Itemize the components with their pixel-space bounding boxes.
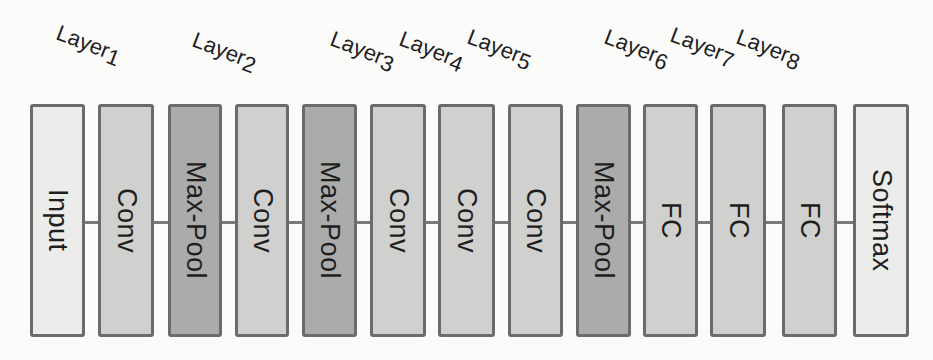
block-maxpool-3: Max-Pool: [576, 104, 631, 337]
block-label: FC: [723, 202, 754, 239]
block-fc-2: FC: [710, 104, 766, 337]
layer-tag-text: Layer: [464, 24, 524, 67]
layer-tag-5: Layer5: [464, 24, 536, 72]
layer-tag-text: Layer: [667, 22, 727, 65]
block-label: FC: [794, 202, 825, 239]
connector-line: [84, 221, 98, 224]
layer-tag-8: Layer8: [733, 24, 805, 72]
block-label: Conv: [111, 188, 142, 253]
cnn-architecture-diagram: Layer1 Layer2 Layer3 Layer4 Layer5 Layer…: [0, 0, 933, 360]
layer-tag-4: Layer4: [396, 26, 468, 74]
layer-tag-2: Layer2: [189, 27, 261, 75]
block-label: Conv: [247, 188, 278, 253]
connector-line: [221, 221, 235, 224]
block-conv-3: Conv: [370, 104, 426, 337]
layer-tag-7: Layer7: [667, 22, 739, 70]
layer-tag-3: Layer3: [327, 26, 399, 74]
block-label: Conv: [451, 188, 482, 253]
block-label: FC: [655, 202, 686, 239]
connector-line: [153, 221, 168, 224]
connector-line: [630, 221, 643, 224]
block-label: Max-Pool: [180, 161, 211, 279]
block-conv-5: Conv: [508, 104, 563, 337]
layer-tag-text: Layer: [53, 20, 113, 63]
block-softmax: Softmax: [853, 104, 909, 337]
block-label: Conv: [383, 188, 414, 253]
connector-line: [562, 221, 576, 224]
block-conv-4: Conv: [438, 104, 495, 337]
block-conv-1: Conv: [98, 104, 154, 337]
layer-tag-text: Layer: [733, 24, 793, 67]
block-label: Input: [42, 189, 73, 252]
layer-tag-6: Layer6: [601, 24, 673, 72]
connector-line: [495, 221, 508, 224]
connector-line: [426, 221, 438, 224]
layer-tag-1: Layer1: [53, 20, 125, 68]
block-maxpool-2: Max-Pool: [302, 104, 357, 337]
connector-line: [766, 221, 782, 224]
connector-line: [356, 221, 370, 224]
layer-tag-text: Layer: [189, 27, 249, 70]
layer-tag-text: Layer: [396, 26, 456, 69]
layer-tag-text: Layer: [601, 24, 661, 67]
connector-line: [697, 221, 710, 224]
connector-line: [836, 221, 853, 224]
block-label: Max-Pool: [588, 161, 619, 279]
connector-line: [288, 221, 302, 224]
block-label: Conv: [520, 188, 551, 253]
block-maxpool-1: Max-Pool: [168, 104, 222, 337]
layer-tag-text: Layer: [327, 26, 387, 69]
block-label: Softmax: [866, 169, 897, 272]
block-label: Max-Pool: [314, 161, 345, 279]
block-fc-3: FC: [782, 104, 837, 337]
block-input: Input: [30, 104, 85, 337]
block-fc-1: FC: [643, 104, 698, 337]
block-conv-2: Conv: [235, 104, 289, 337]
